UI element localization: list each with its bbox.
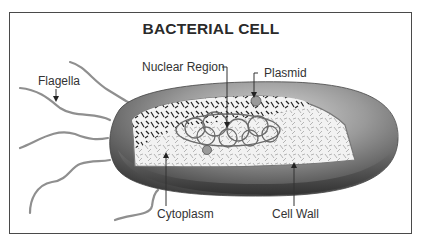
label-plasmid: Plasmid	[264, 66, 307, 80]
label-nuclear-region: Nuclear Region	[142, 60, 225, 74]
label-cytoplasm: Cytoplasm	[157, 207, 214, 221]
plasmid-sphere-2	[203, 146, 212, 155]
label-flagella: Flagella	[38, 74, 80, 88]
plasmid-sphere	[251, 96, 261, 106]
cell-body	[110, 82, 398, 196]
label-cell-wall: Cell Wall	[272, 207, 319, 221]
